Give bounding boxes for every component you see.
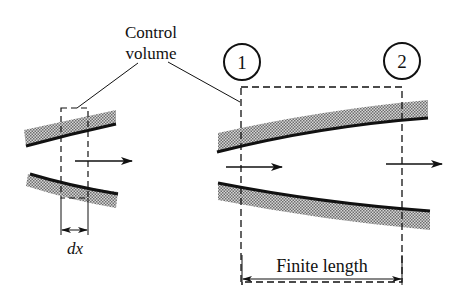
label-control: Control	[125, 23, 177, 42]
leader-lines	[77, 62, 240, 108]
control-volume-label: Control volume	[125, 23, 177, 63]
differential-nozzle: dx	[24, 108, 132, 258]
station-1-label: 1	[237, 52, 247, 73]
label-volume: volume	[126, 44, 177, 63]
dx-label: dx	[67, 239, 84, 258]
control-volume-diagram: Control volume dx	[0, 0, 458, 300]
finite-length-label: Finite length	[276, 256, 368, 276]
station-2-label: 2	[397, 51, 407, 72]
finite-nozzle: 1 2 Finite length	[217, 43, 442, 285]
